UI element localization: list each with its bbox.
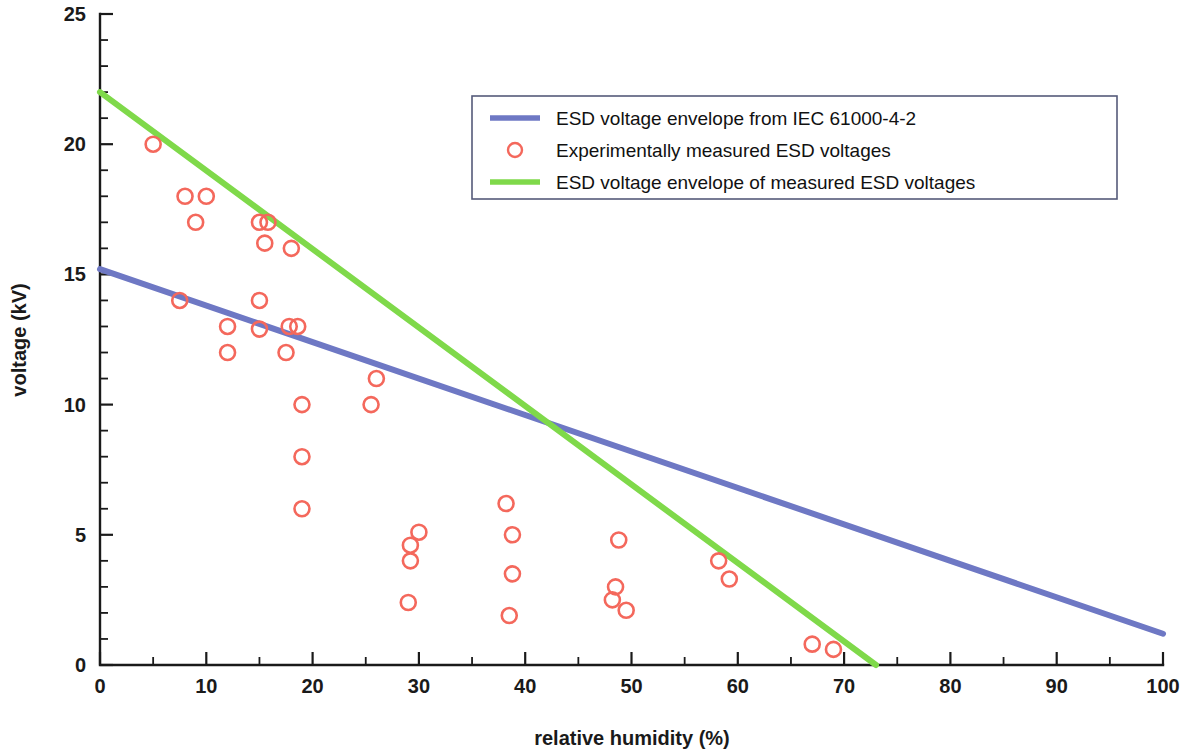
data-point-marker <box>252 293 267 308</box>
data-point-marker <box>294 449 309 464</box>
measured-data-points <box>146 137 841 657</box>
x-tick-label: 80 <box>939 675 961 697</box>
y-tick-label: 20 <box>64 133 86 155</box>
data-point-marker <box>401 595 416 610</box>
data-point-marker <box>403 553 418 568</box>
data-point-marker <box>619 603 634 618</box>
data-point-marker <box>499 496 514 511</box>
esd-voltage-scatter-chart: 0102030405060708090100 0510152025 relati… <box>0 0 1195 754</box>
x-axis-title: relative humidity (%) <box>534 727 730 749</box>
x-tick-label: 0 <box>94 675 105 697</box>
chart-canvas: 0102030405060708090100 0510152025 relati… <box>0 0 1195 754</box>
y-tick-label: 10 <box>64 394 86 416</box>
data-point-marker <box>178 189 193 204</box>
data-point-marker <box>220 319 235 334</box>
x-tick-label: 100 <box>1146 675 1179 697</box>
data-point-marker <box>279 345 294 360</box>
data-point-marker <box>188 215 203 230</box>
y-axis-tick-labels: 0510152025 <box>64 3 86 676</box>
chart-legend: ESD voltage envelope from IEC 61000-4-2E… <box>472 96 1117 199</box>
data-point-marker <box>805 637 820 652</box>
x-tick-label: 10 <box>195 675 217 697</box>
data-point-marker <box>505 527 520 542</box>
data-point-marker <box>826 642 841 657</box>
x-tick-label: 40 <box>514 675 536 697</box>
x-tick-label: 70 <box>833 675 855 697</box>
x-axis-ticks <box>100 652 1163 665</box>
x-tick-label: 60 <box>727 675 749 697</box>
y-tick-label: 0 <box>75 654 86 676</box>
data-point-marker <box>294 501 309 516</box>
x-tick-label: 30 <box>408 675 430 697</box>
legend-entry-label: ESD voltage envelope from IEC 61000-4-2 <box>556 108 916 129</box>
data-point-marker <box>502 608 517 623</box>
data-point-marker <box>220 345 235 360</box>
data-point-marker <box>369 371 384 386</box>
x-axis-tick-labels: 0102030405060708090100 <box>94 675 1179 697</box>
x-tick-label: 90 <box>1046 675 1068 697</box>
x-tick-label: 50 <box>620 675 642 697</box>
y-tick-label: 25 <box>64 3 86 25</box>
legend-entry-label: ESD voltage envelope of measured ESD vol… <box>556 172 975 193</box>
y-axis-title: voltage (kV) <box>8 283 30 396</box>
data-point-marker <box>722 572 737 587</box>
data-point-marker <box>505 566 520 581</box>
data-point-marker <box>257 236 272 251</box>
y-tick-label: 5 <box>75 524 86 546</box>
data-point-marker <box>611 533 626 548</box>
legend-entry-label: Experimentally measured ESD voltages <box>556 140 891 161</box>
data-point-marker <box>403 538 418 553</box>
data-point-marker <box>284 241 299 256</box>
x-tick-label: 20 <box>301 675 323 697</box>
y-tick-label: 15 <box>64 263 86 285</box>
data-point-marker <box>199 189 214 204</box>
data-point-marker <box>146 137 161 152</box>
y-axis-ticks <box>100 14 113 665</box>
data-point-marker <box>294 397 309 412</box>
data-point-marker <box>364 397 379 412</box>
data-point-marker <box>711 553 726 568</box>
envelope-line <box>100 269 1163 634</box>
